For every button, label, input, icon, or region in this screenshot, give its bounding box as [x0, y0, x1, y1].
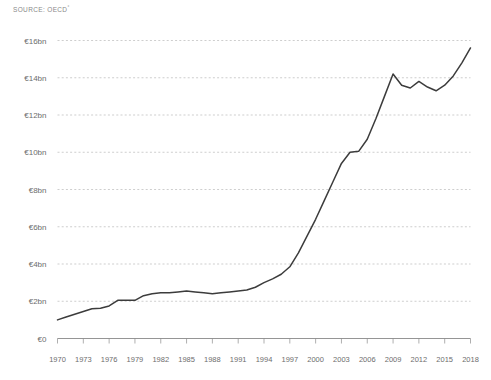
y-axis-tick-label: €4bn: [29, 260, 47, 269]
x-axis-tick-label: 1976: [101, 355, 118, 364]
series-line: [58, 48, 471, 320]
y-axis-tick-label: €14bn: [24, 74, 46, 83]
x-axis-tick-label: 2000: [307, 355, 324, 364]
x-axis-tick-label: 1991: [230, 355, 247, 364]
y-axis-tick-labels: €0€2bn€4bn€6bn€8bn€10bn€12bn€14bn€16bn: [24, 37, 47, 344]
gridlines-group: [58, 41, 471, 302]
y-axis-tick-label: €6bn: [29, 223, 47, 232]
x-axis-tick-label: 1982: [152, 355, 169, 364]
x-axis-tick-label: 1970: [49, 355, 66, 364]
x-axis-tick-label: 2018: [462, 355, 479, 364]
x-axis-tick-labels: 1970197319761979198219851988199119941997…: [49, 355, 479, 364]
y-axis-tick-label: €8bn: [29, 186, 47, 195]
x-axis-tick-label: 2012: [411, 355, 428, 364]
y-axis-tick-label: €0: [38, 335, 47, 344]
x-axis-tick-label: 1979: [127, 355, 144, 364]
x-axis-tick-label: 1997: [281, 355, 298, 364]
x-axis-tick-label: 2003: [333, 355, 350, 364]
x-axis-tick-label: 1973: [75, 355, 92, 364]
y-axis-tick-label: €2bn: [29, 297, 47, 306]
x-axis: [58, 339, 471, 344]
x-axis-tick-label: 2015: [436, 355, 453, 364]
y-axis-tick-label: €16bn: [24, 37, 46, 46]
data-series-group: [58, 48, 471, 320]
x-axis-tick-label: 2009: [385, 355, 402, 364]
x-axis-tick-label: 2006: [359, 355, 376, 364]
chart-container: SOURCE: OECD° €0€2bn€4bn€6bn€8bn€10bn€12…: [0, 0, 491, 380]
x-axis-tick-label: 1994: [256, 355, 273, 364]
line-chart-plot: €0€2bn€4bn€6bn€8bn€10bn€12bn€14bn€16bn 1…: [0, 0, 491, 380]
y-axis-tick-label: €10bn: [24, 148, 46, 157]
x-axis-tick-label: 1985: [178, 355, 195, 364]
x-axis-tick-label: 1988: [204, 355, 221, 364]
y-axis-tick-label: €12bn: [24, 111, 46, 120]
